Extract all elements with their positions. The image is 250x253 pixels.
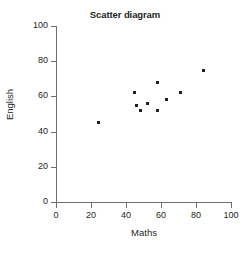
scatter-chart: Scatter diagram Maths English 0204060801… xyxy=(0,0,250,253)
y-axis-tick-label: 0 xyxy=(8,197,48,206)
data-point xyxy=(133,91,136,94)
data-point xyxy=(202,69,205,72)
y-axis-tick-label: 60 xyxy=(8,91,48,100)
data-point xyxy=(156,109,159,112)
data-point xyxy=(139,109,142,112)
x-axis-tick xyxy=(126,203,127,208)
x-axis-tick-label: 40 xyxy=(106,211,146,220)
x-axis-tick-label: 80 xyxy=(176,211,216,220)
chart-title: Scatter diagram xyxy=(0,9,250,20)
x-axis-tick-label: 100 xyxy=(211,211,250,220)
x-axis-tick xyxy=(56,203,57,208)
x-axis-tick xyxy=(196,203,197,208)
data-point xyxy=(97,121,100,124)
data-point xyxy=(156,81,159,84)
data-point xyxy=(135,104,138,107)
plot-area xyxy=(56,26,231,202)
y-axis-tick-label: 80 xyxy=(8,56,48,65)
x-axis-tick xyxy=(161,203,162,208)
data-point xyxy=(165,98,168,101)
data-point xyxy=(146,102,149,105)
y-axis-tick-label: 20 xyxy=(8,162,48,171)
x-axis-tick-label: 0 xyxy=(36,211,76,220)
data-point xyxy=(179,91,182,94)
x-axis-tick-label: 20 xyxy=(71,211,111,220)
x-axis-tick xyxy=(231,203,232,208)
y-axis-tick-label: 100 xyxy=(8,21,48,30)
x-axis-title: Maths xyxy=(56,227,232,238)
x-axis-tick xyxy=(91,203,92,208)
x-axis-tick-label: 60 xyxy=(141,211,181,220)
y-axis-title: English xyxy=(4,75,15,135)
y-axis-tick-label: 40 xyxy=(8,127,48,136)
x-axis-line xyxy=(56,202,232,203)
